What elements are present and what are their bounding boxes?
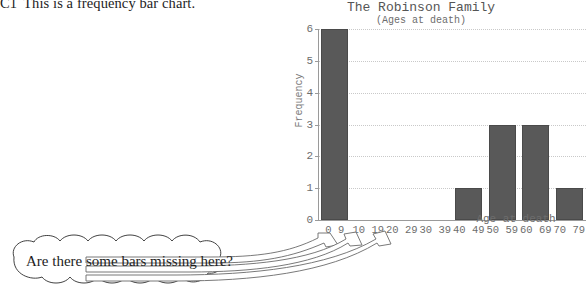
bar bbox=[522, 125, 549, 221]
chart-subtitle: (Ages at death) bbox=[286, 15, 556, 26]
question-text: This is a frequency bar chart. bbox=[23, 0, 195, 11]
y-tick-label: 0 bbox=[306, 214, 313, 226]
y-axis-title: Frequency bbox=[294, 56, 305, 146]
y-tick-label: 5 bbox=[306, 55, 313, 67]
y-tick-mark bbox=[315, 125, 318, 126]
annotation-callout: Are there some bars missing here? bbox=[0, 233, 440, 287]
y-tick-mark bbox=[315, 156, 318, 157]
plot-area: 0123456 0 910 1920 2930 3940 4950 5960 6… bbox=[318, 29, 586, 221]
y-tick-mark bbox=[315, 220, 318, 221]
y-tick-label: 3 bbox=[306, 119, 313, 131]
bubble-text: Are there some bars missing here? bbox=[26, 253, 233, 270]
bar bbox=[489, 125, 516, 221]
y-tick-label: 6 bbox=[306, 23, 313, 35]
bar-chart: The Robinson Family (Ages at death) Freq… bbox=[286, 0, 586, 250]
x-tick-label: 40 49 bbox=[453, 224, 485, 236]
y-tick-label: 4 bbox=[306, 87, 313, 99]
y-tick-mark bbox=[315, 29, 318, 30]
gridline bbox=[319, 61, 586, 62]
y-tick-mark bbox=[315, 61, 318, 62]
x-axis-title: Age at death bbox=[436, 213, 586, 225]
y-tick-label: 2 bbox=[306, 150, 313, 162]
x-tick-label: 70 79 bbox=[553, 224, 585, 236]
chart-title: The Robinson Family bbox=[286, 0, 556, 15]
question-line: C1This is a frequency bar chart. bbox=[0, 0, 280, 12]
y-tick-mark bbox=[315, 188, 318, 189]
gridline bbox=[319, 29, 586, 30]
gridline bbox=[319, 93, 586, 94]
x-tick-label: 50 59 bbox=[486, 224, 518, 236]
plot-inner: 0123456 0 910 1920 2930 3940 4950 5960 6… bbox=[318, 29, 586, 221]
question-code: C1 bbox=[0, 0, 17, 12]
x-tick-label: 60 69 bbox=[520, 224, 552, 236]
y-tick-label: 1 bbox=[306, 182, 313, 194]
y-tick-mark bbox=[315, 93, 318, 94]
bar bbox=[321, 29, 348, 220]
